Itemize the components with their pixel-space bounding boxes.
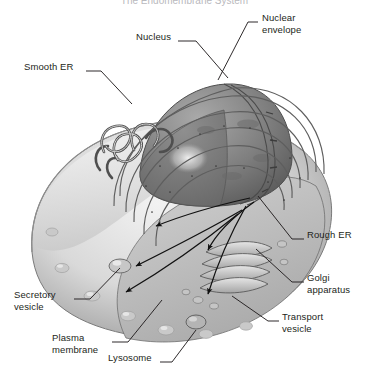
label-lysosome: Lysosome bbox=[108, 352, 152, 364]
leader-smooth-er bbox=[86, 71, 132, 104]
label-transport-vesicle: Transport vesicle bbox=[282, 311, 323, 334]
label-nucleus: Nucleus bbox=[136, 31, 171, 43]
nucleus bbox=[140, 84, 292, 206]
label-smooth-er: Smooth ER bbox=[24, 61, 73, 73]
nucleolus bbox=[168, 143, 208, 173]
label-nuclear-envelope: Nuclear envelope bbox=[262, 12, 301, 35]
lysosome bbox=[186, 315, 206, 329]
label-plasma-membrane: Plasma membrane bbox=[52, 332, 98, 355]
secretory-vesicle bbox=[109, 259, 131, 273]
leader-nuclear-envelope bbox=[218, 22, 258, 80]
label-secretory-vesicle: Secretory vesicle bbox=[14, 289, 56, 312]
label-rough-er: Rough ER bbox=[307, 229, 352, 241]
leader-nucleus bbox=[178, 41, 228, 78]
label-golgi-apparatus: Golgi apparatus bbox=[307, 272, 350, 295]
